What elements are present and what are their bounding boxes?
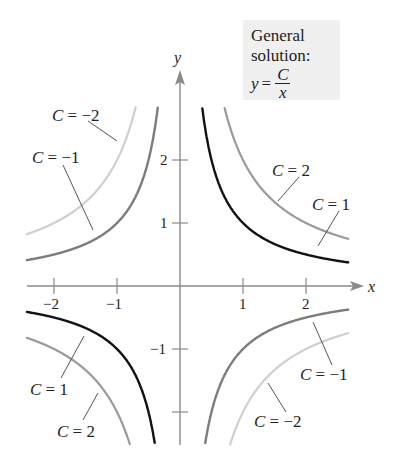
curve-c-1 [202,108,348,262]
y-tick-label: −1 [150,341,166,357]
leader-line [63,165,93,230]
leader-line [318,211,339,246]
fraction-denominator: x [279,84,287,101]
curve-c-minus-2 [27,107,136,234]
solution-equation: y = C x [251,66,340,101]
tick-marks: −2−112−112 [43,152,310,412]
equation-fraction: C x [275,66,290,101]
x-axis-label: x [367,278,375,295]
label-upper-left-c-minus-1: C = −1 [32,148,80,167]
curve-c-minus-1 [27,108,158,261]
label-upper-right-c-1: C = 1 [312,195,350,214]
leader-line [61,336,84,378]
box-line-2: solution: [251,46,340,66]
label-upper-right-c-2: C = 2 [272,161,310,180]
y-axis-label: y [172,49,182,67]
x-tick-label: −1 [106,296,122,312]
general-solution-box: General solution: y = C x [243,20,340,100]
y-tick-label: 1 [160,215,168,231]
label-lower-left-c-2: C = 2 [57,422,95,441]
leader-line [83,393,98,420]
x-tick-label: −2 [43,296,59,312]
label-lower-right-c-minus-1: C = −1 [300,365,348,384]
label-lower-left-c-1: C = 1 [30,380,68,399]
leader-line [278,177,299,201]
x-tick-label: 1 [239,296,247,312]
label-lower-right-c-minus-2: C = −2 [254,412,302,431]
y-tick-label: 2 [160,152,168,168]
leader-line [268,383,286,412]
x-tick-label: 2 [302,296,310,312]
equation-equals: = [262,74,272,94]
label-upper-left-c-minus-2: C = −2 [52,106,100,125]
equation-lhs: y [251,74,259,94]
fraction-numerator: C [275,66,290,84]
box-line-1: General [251,26,340,46]
